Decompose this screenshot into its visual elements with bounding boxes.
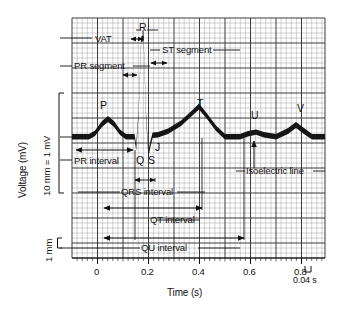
- wave-label-u: U: [251, 110, 258, 121]
- wave-label-j: J: [155, 142, 160, 153]
- annotation-pr-segment: PR segment: [74, 61, 125, 71]
- annotation-st-segment: ST segment: [162, 45, 212, 55]
- annotation-isoelectric-line: Isoelectric line: [246, 166, 304, 176]
- annotation-pr-interval: PR interval: [74, 156, 119, 166]
- voltage-scale-bracket: [59, 93, 64, 193]
- annotation-qt-interval: QT interval: [150, 215, 195, 225]
- x-tick-label-1: 0.2: [141, 267, 154, 277]
- time-scale-note: 0.04 s: [293, 276, 317, 285]
- one-mm-note: 1 mm: [44, 239, 54, 262]
- wave-label-v: V: [297, 103, 304, 114]
- ecg-diagram-figure: P R Q S J T U V VAT ST segment PR segmen…: [0, 0, 347, 309]
- x-tick-label-3: 0.6: [243, 267, 256, 277]
- x-axis-title: Time (s): [167, 288, 202, 298]
- wave-label-t: T: [197, 98, 203, 109]
- annotation-vat: VAT: [95, 34, 112, 44]
- wave-label-r: R: [139, 22, 146, 33]
- wave-label-s: S: [148, 155, 155, 166]
- wave-label-q: Q: [136, 155, 144, 166]
- y-axis-title: Voltage (mV): [18, 142, 28, 198]
- x-axis-ticks: [72, 258, 325, 264]
- x-tick-label-0: 0: [94, 267, 99, 277]
- one-mm-bracket: [58, 238, 63, 248]
- voltage-scale-note: 10 mm = 1 mV: [42, 136, 52, 196]
- x-tick-label-2: 0.4: [192, 267, 205, 277]
- annotation-qu-interval: QU interval: [141, 243, 187, 253]
- wave-label-p: P: [100, 100, 107, 111]
- annotation-qrs-interval: QRS interval: [121, 187, 173, 197]
